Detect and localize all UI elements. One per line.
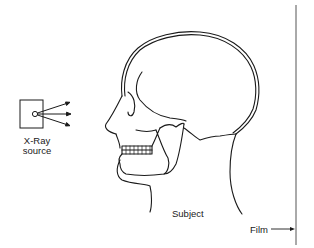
xray-source-label-line2: source	[14, 146, 60, 156]
xray-source-icon	[20, 100, 71, 128]
subject-label: Subject	[172, 209, 204, 219]
diagram-canvas	[0, 0, 314, 248]
film-plane	[271, 5, 296, 245]
subject-skull-icon	[105, 32, 258, 214]
xray-source-label: X-Ray source	[14, 136, 60, 156]
film-arrow-icon	[290, 227, 295, 231]
film-label: Film	[250, 225, 268, 235]
